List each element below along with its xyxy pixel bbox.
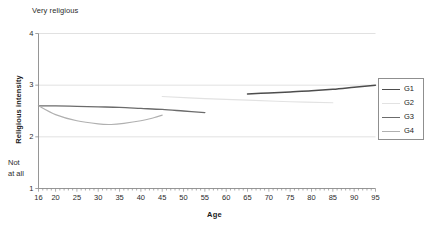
gridlines	[39, 34, 376, 137]
legend-item-g1[interactable]: G1	[379, 82, 423, 96]
legend-box[interactable]: G1G2G3G4	[378, 78, 424, 140]
legend-item-g3[interactable]: G3	[379, 110, 423, 124]
series-lines	[39, 85, 376, 124]
legend-swatch-g4	[382, 131, 400, 132]
chart-container: Very religious Not at all Religious inte…	[0, 0, 429, 229]
series-line-g3	[39, 106, 205, 113]
legend-swatch-g1	[382, 89, 400, 90]
plot-area	[0, 0, 429, 229]
legend-label-g4: G4	[404, 127, 414, 135]
axis-lines	[39, 34, 376, 189]
series-line-g2	[162, 97, 333, 103]
legend-item-g2[interactable]: G2	[379, 96, 423, 110]
series-line-g1	[248, 85, 376, 94]
legend-label-g2: G2	[404, 99, 414, 107]
legend-label-g1: G1	[404, 85, 414, 93]
legend-item-g4[interactable]: G4	[379, 124, 423, 138]
legend-swatch-g2	[382, 103, 400, 104]
legend-label-g3: G3	[404, 113, 414, 121]
legend-swatch-g3	[382, 117, 400, 118]
